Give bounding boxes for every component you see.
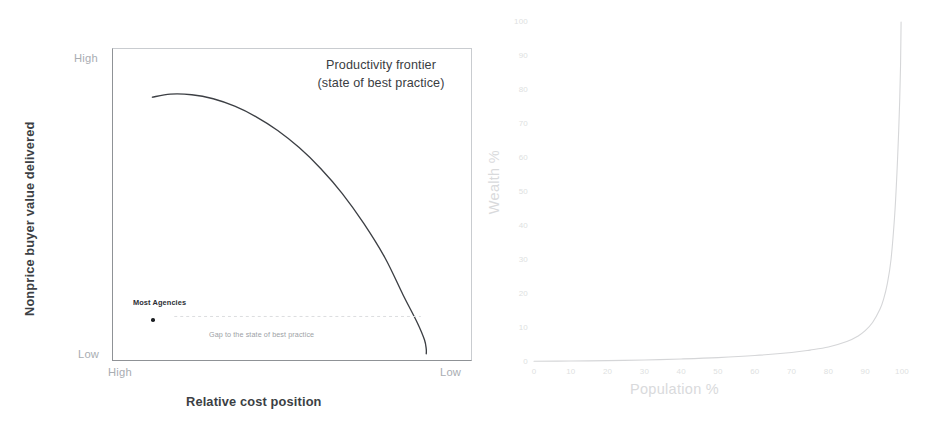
- y-axis-title: Wealth %: [486, 150, 502, 214]
- y-axis-title: Nonprice buyer value delivered: [22, 98, 37, 316]
- x-axis-tick-label: 40: [670, 367, 692, 376]
- x-axis-tick-label: 100: [891, 367, 913, 376]
- y-axis-tick-label: 10: [502, 323, 528, 332]
- frontier-plot-area: Most Agencies Gap to the state of best p…: [112, 48, 472, 361]
- x-axis-low-label: Low: [440, 366, 461, 378]
- y-axis-low-label: Low: [78, 348, 99, 360]
- y-axis-tick-label: 70: [502, 119, 528, 128]
- frontier-title-line-1: Productivity frontier: [291, 57, 471, 75]
- frontier-curve-svg: [113, 49, 471, 360]
- x-axis-tick-label: 0: [523, 367, 545, 376]
- y-axis-tick-label: 80: [502, 85, 528, 94]
- gap-annotation-label: Gap to the state of best practice: [209, 330, 314, 339]
- y-axis-title-text: Nonprice buyer value delivered: [22, 98, 37, 316]
- wealth-curve-svg: [534, 22, 902, 362]
- most-agencies-label: Most Agencies: [133, 298, 186, 307]
- y-axis-high-label: High: [74, 52, 98, 64]
- x-axis-tick-label: 30: [633, 367, 655, 376]
- y-axis-tick-label: 40: [502, 221, 528, 230]
- x-axis-high-label: High: [108, 366, 132, 378]
- x-axis-tick-label: 10: [560, 367, 582, 376]
- y-axis-tick-label: 30: [502, 255, 528, 264]
- x-axis-tick-label: 60: [744, 367, 766, 376]
- figure-page: High Low High Low Nonprice buyer value d…: [0, 0, 936, 435]
- x-axis-title: Population %: [630, 381, 719, 397]
- productivity-frontier-figure: High Low High Low Nonprice buyer value d…: [0, 0, 480, 435]
- x-axis-tick-label: 70: [781, 367, 803, 376]
- y-axis-tick-label: 20: [502, 289, 528, 298]
- frontier-title-line-2: (state of best practice): [291, 75, 471, 93]
- y-axis-tick-label: 100: [502, 17, 528, 26]
- y-axis-tick-label: 50: [502, 187, 528, 196]
- wealth-plot-area: 0102030405060708090100 01020304050607080…: [534, 22, 902, 362]
- y-axis-tick-label: 90: [502, 51, 528, 60]
- x-axis-title: Relative cost position: [186, 394, 322, 409]
- y-axis-tick-label: 0: [502, 357, 528, 366]
- x-axis-tick-label: 80: [817, 367, 839, 376]
- x-axis-tick-label: 20: [597, 367, 619, 376]
- wealth-distribution-figure: Wealth % Population % 010203040506070809…: [480, 0, 936, 435]
- x-axis-tick-label: 90: [854, 367, 876, 376]
- most-agencies-point: [151, 318, 155, 322]
- wealth-curve-path: [534, 22, 901, 361]
- y-axis-tick-label: 60: [502, 153, 528, 162]
- frontier-curve-path: [152, 94, 426, 354]
- frontier-title-block: Productivity frontier (state of best pra…: [291, 57, 471, 93]
- x-axis-tick-label: 50: [707, 367, 729, 376]
